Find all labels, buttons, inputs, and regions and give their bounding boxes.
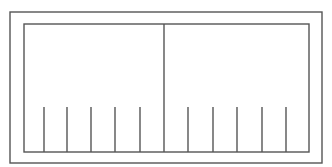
right-panel-slats bbox=[188, 107, 286, 152]
frame-diagram bbox=[0, 0, 332, 167]
left-panel-slats bbox=[44, 107, 140, 152]
outer-frame bbox=[10, 12, 322, 163]
